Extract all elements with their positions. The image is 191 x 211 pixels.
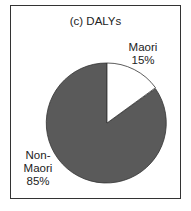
label-non-maori-value: 85% bbox=[14, 175, 62, 188]
label-maori: Maori 15% bbox=[118, 41, 168, 67]
label-non-maori-name-2: Maori bbox=[14, 162, 62, 175]
label-non-maori-name-1: Non- bbox=[14, 149, 62, 162]
label-maori-value: 15% bbox=[118, 54, 168, 67]
label-non-maori: Non- Maori 85% bbox=[14, 149, 62, 188]
chart-title: (c) DALYs bbox=[0, 15, 191, 28]
label-maori-name: Maori bbox=[118, 41, 168, 54]
